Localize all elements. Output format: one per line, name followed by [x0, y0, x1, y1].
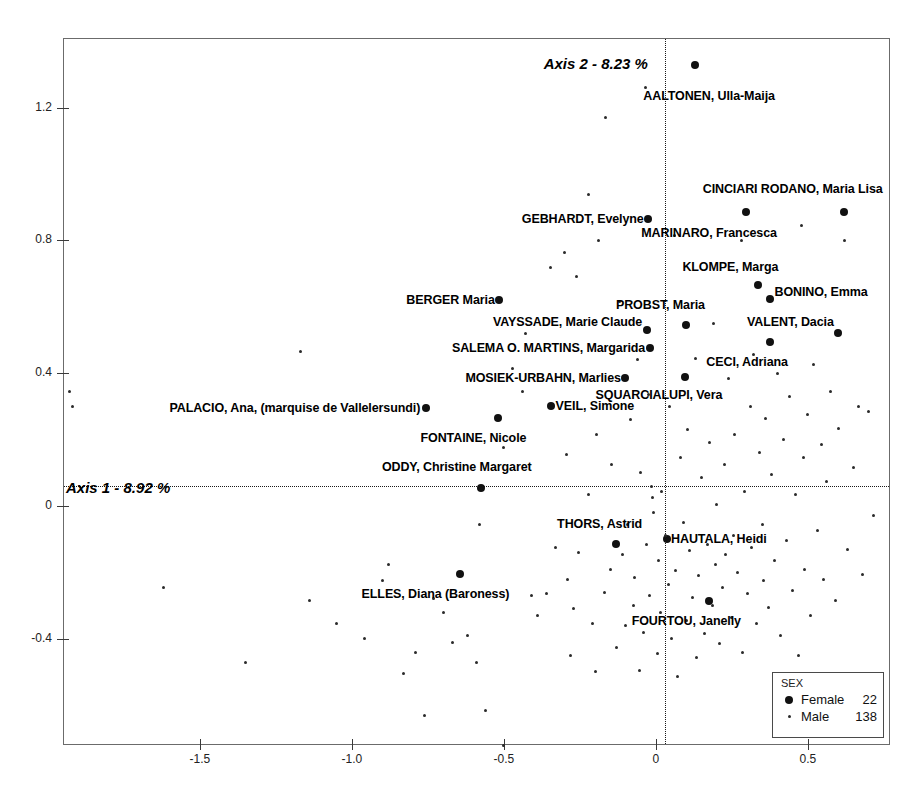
- y-tick-label: -0.4: [0, 631, 52, 645]
- data-point-male: [834, 599, 837, 602]
- x-tick-label: -0.5: [494, 752, 515, 766]
- data-point-label: SALEMA O. MARTINS, Margarida: [452, 341, 645, 355]
- data-point-male: [779, 634, 782, 637]
- data-point-label: MARINARO, Francesca: [641, 226, 777, 240]
- data-point-male: [536, 614, 539, 617]
- data-point-male: [609, 568, 612, 571]
- data-point-male: [638, 669, 641, 672]
- x-tick-mark: [200, 739, 201, 750]
- data-point-male: [861, 573, 864, 576]
- data-point-male: [761, 523, 764, 526]
- data-point-male: [530, 594, 533, 597]
- male-marker-icon: [781, 715, 797, 718]
- data-point-label: GEBHARDT, Evelyne: [522, 212, 644, 226]
- data-point-male: [764, 417, 767, 420]
- data-point-male: [776, 372, 779, 375]
- data-point-male: [414, 651, 417, 654]
- data-point-male: [521, 390, 524, 393]
- data-point-label: BERGER Maria: [406, 293, 494, 307]
- data-point-female: [494, 414, 502, 422]
- x-tick-label: 0: [653, 752, 660, 766]
- data-point-female: [643, 326, 651, 334]
- data-point-male: [162, 586, 165, 589]
- legend-box: SEX Female 22 Male 138: [772, 672, 884, 738]
- data-point-male: [668, 405, 671, 408]
- data-point-male: [475, 661, 478, 664]
- data-point-male: [387, 563, 390, 566]
- x-tick-label: 0.5: [800, 752, 817, 766]
- plot-frame: [63, 38, 890, 745]
- data-point-male: [451, 641, 454, 644]
- y-tick-mark: [57, 240, 69, 241]
- data-point-male: [524, 332, 527, 335]
- data-point-label: THORS, Astrid: [557, 517, 642, 531]
- scatter-plot-figure: 1.20.80.40-0.4 -1.5-1.0-0.500.5 AALTONEN…: [0, 0, 917, 799]
- data-point-male: [694, 357, 697, 360]
- data-point-male: [843, 239, 846, 242]
- data-point-male: [743, 490, 746, 493]
- axis-2-annotation: Axis 2 - 8.23 %: [544, 54, 648, 71]
- data-point-male: [822, 578, 825, 581]
- data-point-male: [632, 604, 635, 607]
- x-tick-mark: [808, 739, 809, 750]
- data-point-female: [754, 281, 762, 289]
- data-point-female: [477, 484, 485, 492]
- data-point-male: [603, 591, 606, 594]
- data-point-female: [456, 570, 464, 578]
- data-point-label: CECI, Adriana: [706, 355, 788, 369]
- data-point-male: [767, 606, 770, 609]
- data-point-male: [642, 631, 645, 634]
- data-point-label: MOSIEK-URBAHN, Marlies: [465, 371, 620, 385]
- data-point-male: [566, 578, 569, 581]
- data-point-label: CINCIARI RODANO, Maria Lisa: [703, 182, 883, 196]
- data-point-label: AALTONEN, Ulla-Maija: [643, 89, 775, 103]
- data-point-male: [667, 583, 670, 586]
- data-point-male: [597, 239, 600, 242]
- data-point-male: [466, 634, 469, 637]
- data-point-label: FONTAINE, Nicole: [421, 431, 527, 445]
- data-point-male: [442, 611, 445, 614]
- y-tick-mark: [57, 639, 69, 640]
- data-point-male: [741, 651, 744, 654]
- axis-1-annotation: Axis 1 - 8.92 %: [66, 479, 170, 496]
- x-tick-mark: [352, 739, 353, 750]
- data-point-female: [766, 295, 774, 303]
- legend-entry-male: Male 138: [781, 708, 877, 725]
- legend-count-male: 138: [849, 709, 877, 724]
- data-point-male: [711, 604, 714, 607]
- data-point-male: [691, 596, 694, 599]
- data-point-male: [650, 485, 653, 488]
- data-point-label: VEIL, Simone: [556, 399, 635, 413]
- data-point-female: [742, 208, 750, 216]
- x-tick-label: -1.0: [341, 752, 362, 766]
- data-point-male: [615, 646, 618, 649]
- y-tick-mark: [57, 373, 69, 374]
- data-point-male: [621, 553, 624, 556]
- data-point-male: [308, 599, 311, 602]
- y-tick-mark: [57, 108, 69, 109]
- data-point-male: [577, 551, 580, 554]
- data-point-male: [299, 350, 302, 353]
- data-point-male: [714, 563, 717, 566]
- data-point-male: [68, 390, 71, 393]
- data-point-male: [563, 251, 566, 254]
- data-point-male: [629, 418, 632, 421]
- data-point-label: VAYSSADE, Marie Claude: [493, 315, 642, 329]
- data-point-male: [837, 427, 840, 430]
- data-point-label: VALENT, Dacia: [747, 315, 834, 329]
- y-tick-label: 1.2: [0, 100, 52, 114]
- data-point-label: FOURTOU, Janelly: [632, 614, 741, 628]
- data-point-male: [381, 579, 384, 582]
- y-tick-label: 0: [0, 498, 52, 512]
- x-tick-mark: [656, 739, 657, 750]
- data-point-male: [633, 576, 636, 579]
- data-point-male: [478, 523, 481, 526]
- data-point-label: ELLES, Diana (Baroness): [362, 587, 510, 601]
- data-point-label: PROBST, Maria: [616, 298, 705, 312]
- data-point-male: [645, 543, 648, 546]
- data-point-male: [825, 480, 828, 483]
- data-point-label: PALACIO, Ana, (marquise de Vallelersundi…: [169, 401, 420, 415]
- x-tick-label: -1.5: [189, 752, 210, 766]
- y-tick-mark: [57, 506, 69, 507]
- female-marker-icon: [781, 696, 797, 704]
